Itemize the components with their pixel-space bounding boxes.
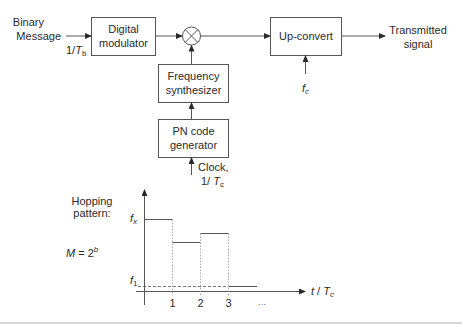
x-tick-2: 2	[197, 297, 203, 309]
x-tick-3: 3	[225, 297, 231, 309]
digital-modulator-label-line1: Digital	[108, 23, 139, 35]
binary-message-label-line2: Message	[16, 30, 61, 42]
digital-modulator-label-line2: modulator	[99, 37, 148, 49]
bottom-separator	[0, 322, 462, 324]
frequency-synthesizer-label-line1: Frequency	[168, 70, 220, 82]
pn-code-generator-label-line1: PN code	[172, 125, 214, 137]
output-label-line1: Transmitted	[389, 24, 447, 36]
fhss-transmitter-diagram: Binary Message 1/Tb Digital modulator Fr…	[0, 0, 462, 331]
binary-message-label-line1: Binary	[13, 16, 45, 28]
clock-label-line2: 1/ Tc	[201, 175, 224, 189]
output-label-line2: signal	[404, 38, 433, 50]
y-label-fx: fx	[130, 212, 138, 226]
y-label-f1: f1	[130, 274, 138, 288]
m-equation: M = 2b	[66, 245, 99, 259]
x-tick-1: 1	[169, 297, 175, 309]
hopping-title-line2: pattern:	[73, 207, 110, 219]
hopping-title-line1: Hopping	[72, 195, 113, 207]
up-convert-label: Up-convert	[279, 30, 333, 42]
pn-code-generator-label-line2: generator	[170, 139, 217, 151]
x-tick-ellipsis: ···	[258, 300, 266, 309]
frequency-synthesizer-label-line2: synthesizer	[166, 84, 222, 96]
carrier-frequency-label: fc	[302, 82, 309, 96]
clock-label-line1: Clock,	[198, 161, 229, 173]
x-axis-label: t / Tc	[311, 285, 334, 299]
bit-rate-label: 1/Tb	[66, 44, 87, 58]
